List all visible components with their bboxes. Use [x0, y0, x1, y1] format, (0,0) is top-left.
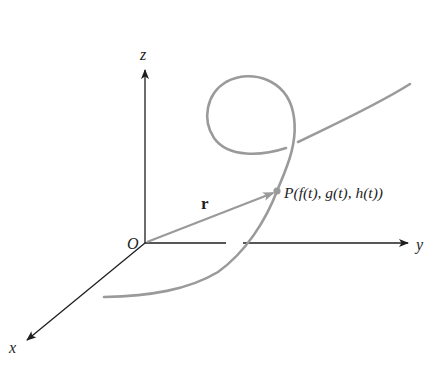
y-axis-label: y	[414, 236, 424, 254]
x-axis-label: x	[8, 339, 16, 356]
x-axis	[27, 243, 145, 340]
point-p-dot	[273, 187, 280, 194]
point-p-label: P(f(t), g(t), h(t))	[283, 184, 383, 202]
curve-loop	[207, 76, 294, 191]
z-axis-label: z	[139, 46, 147, 63]
space-curve-diagram: z y x O r P(f(t), g(t), h(t))	[0, 0, 439, 380]
vector-r-label: r	[201, 194, 209, 213]
origin-label: O	[127, 235, 139, 252]
curve-right-tail	[298, 84, 410, 142]
